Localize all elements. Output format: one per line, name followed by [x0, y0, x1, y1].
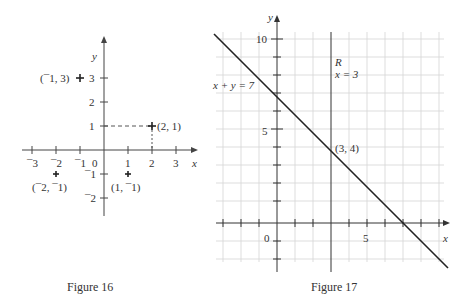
line-label-x-plus-y: x + y = 7: [212, 79, 255, 91]
plus-marker-icon: [125, 171, 131, 177]
y-axis-arrow-icon: [274, 15, 280, 22]
x-axis-arrow-icon: [191, 147, 198, 153]
x-tick-label: ¯3: [26, 157, 39, 169]
x-axis-label: x: [442, 232, 448, 244]
origin-label: 0: [264, 232, 270, 244]
x-axis-label: x: [191, 157, 197, 169]
y-tick-label: 3: [89, 72, 95, 84]
x-tick-label: 5: [363, 232, 369, 244]
y-tick-label: ¯2: [84, 192, 96, 204]
y-axis-arrow-icon: [101, 36, 107, 43]
plus-marker-icon: [148, 122, 156, 130]
grid-lines: [216, 32, 444, 262]
plus-marker-icon: [76, 74, 84, 82]
figure-caption: Figure 17: [311, 280, 357, 294]
y-axis-label: y: [267, 11, 273, 23]
x-axis-arrow-icon: [443, 220, 450, 226]
point-label: (2, 1): [157, 120, 181, 133]
point-label: (¯1, 3): [40, 72, 70, 85]
y-tick-label: ¯1: [84, 168, 96, 180]
y-tick-label: 10: [256, 33, 268, 45]
y-tick-label: 1: [89, 120, 95, 132]
x-tick-label: 3: [173, 157, 179, 169]
point-label: (¯2, ¯1): [32, 181, 67, 194]
region-label-r: R: [334, 56, 342, 68]
figures-canvas: ¯3 ¯2 ¯1 0 1 2 3 x 3 2 1 ¯1 ¯2 y (¯1, 3)…: [0, 0, 474, 296]
x-tick-label: 1: [125, 157, 131, 169]
figure-caption: Figure 16: [67, 280, 113, 294]
intersection-label: (3, 4): [335, 142, 359, 155]
x-tick-label: 2: [149, 157, 155, 169]
x-tick-label: ¯2: [50, 157, 62, 169]
point-label: (1, ¯1): [111, 181, 141, 194]
y-tick-label: 5: [262, 125, 268, 137]
figure-16: ¯3 ¯2 ¯1 0 1 2 3 x 3 2 1 ¯1 ¯2 y (¯1, 3)…: [22, 36, 198, 294]
plus-marker-icon: [53, 171, 59, 177]
figure-17: y 10 5 0 5 x x + y = 7 R x = 3 (3, 4) Fi…: [212, 11, 450, 294]
y-tick-label: 2: [89, 96, 95, 108]
line-label-x-equals-3: x = 3: [334, 68, 359, 80]
y-axis-label: y: [91, 50, 97, 62]
